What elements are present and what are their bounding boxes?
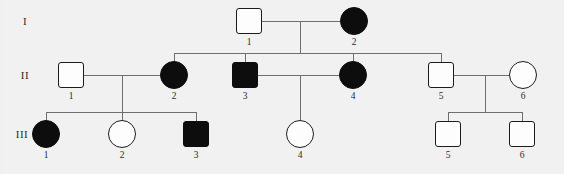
individual-label-iii-1: 1: [44, 150, 49, 160]
individual-iii-5[interactable]: [435, 121, 461, 147]
individual-iii-3[interactable]: [183, 121, 209, 147]
individual-ii-1[interactable]: [58, 62, 84, 88]
individual-label-ii-3: 3: [243, 91, 248, 101]
sibship-bar-iii-1-3: [46, 112, 196, 113]
individual-label-iii-4: 4: [298, 150, 303, 160]
sibship-bar-iii-5-6: [448, 112, 522, 113]
individual-label-ii-1: 1: [69, 91, 74, 101]
generation-label-iii: III: [16, 128, 29, 140]
sibship-drop-iii-5: [448, 112, 449, 121]
descent-stem-generation-i: [300, 21, 301, 53]
individual-i-1[interactable]: [236, 8, 262, 34]
pedigree-chart: I II III 1 2 1 2 3 4 5 6 1 2: [0, 0, 564, 174]
mating-line-ii5-ii6: [454, 75, 509, 76]
individual-label-ii-4: 4: [351, 91, 356, 101]
individual-iii-6[interactable]: [509, 121, 535, 147]
individual-iii-4[interactable]: [286, 120, 314, 148]
descent-stem-ii5-ii6: [485, 75, 486, 112]
individual-label-ii-5: 5: [439, 91, 444, 101]
individual-i-2[interactable]: [340, 7, 368, 35]
individual-label-iii-3: 3: [194, 150, 199, 160]
sibship-bar-generation-ii: [174, 53, 441, 54]
descent-stem-ii1-ii2: [122, 75, 123, 112]
individual-label-ii-6: 6: [521, 91, 526, 101]
individual-ii-2[interactable]: [160, 61, 188, 89]
individual-ii-5[interactable]: [428, 62, 454, 88]
mating-line-i1-i2: [262, 21, 340, 22]
sibship-drop-ii-3: [245, 53, 246, 62]
mating-line-ii3-ii4: [258, 75, 339, 76]
individual-label-i-2: 2: [352, 37, 357, 47]
individual-label-i-1: 1: [247, 37, 252, 47]
sibship-drop-ii-4: [353, 53, 354, 61]
generation-label-ii: II: [21, 69, 29, 81]
individual-iii-1[interactable]: [32, 120, 60, 148]
individual-ii-6[interactable]: [509, 61, 537, 89]
individual-label-iii-5: 5: [446, 150, 451, 160]
sibship-drop-iii-3: [196, 112, 197, 121]
sibship-drop-ii-5: [441, 53, 442, 62]
sibship-drop-iii-6: [522, 112, 523, 121]
individual-iii-2[interactable]: [108, 120, 136, 148]
individual-ii-4[interactable]: [339, 61, 367, 89]
individual-label-iii-2: 2: [120, 150, 125, 160]
individual-ii-3[interactable]: [232, 62, 258, 88]
individual-label-iii-6: 6: [520, 150, 525, 160]
individual-label-ii-2: 2: [172, 91, 177, 101]
generation-label-i: I: [23, 15, 27, 27]
descent-stem-ii3-ii4: [300, 75, 301, 121]
